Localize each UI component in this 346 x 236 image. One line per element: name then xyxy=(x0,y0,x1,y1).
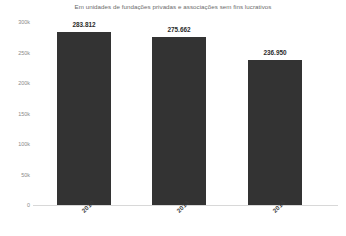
y-axis: 300k250k200k150k100k50k0 xyxy=(0,0,30,236)
y-axis-tick-label: 250k xyxy=(4,50,30,56)
bar-value-label: 236.950 xyxy=(263,49,286,57)
y-axis-tick-label: 300k xyxy=(4,19,30,25)
bar-value-label: 283.812 xyxy=(72,21,95,29)
bar[interactable] xyxy=(57,32,111,205)
bar-chart: Em unidades de fundações privadas e asso… xyxy=(0,0,346,236)
y-axis-tick-label: 100k xyxy=(4,141,30,147)
bar-group: 236.9502016 xyxy=(248,0,302,236)
bar[interactable] xyxy=(152,37,206,205)
bar-group: 283.8122010 xyxy=(57,0,111,236)
bar[interactable] xyxy=(248,60,302,205)
plot-area: 300k250k200k150k100k50k0 283.8122010275.… xyxy=(0,0,346,236)
y-axis-tick-label: 50k xyxy=(4,172,30,178)
y-axis-tick-label: 200k xyxy=(4,80,30,86)
bar-value-label: 275.662 xyxy=(167,26,190,34)
bar-group: 275.6622013 xyxy=(152,0,206,236)
y-axis-tick-label: 150k xyxy=(4,111,30,117)
y-axis-tick-label: 0 xyxy=(4,202,30,208)
